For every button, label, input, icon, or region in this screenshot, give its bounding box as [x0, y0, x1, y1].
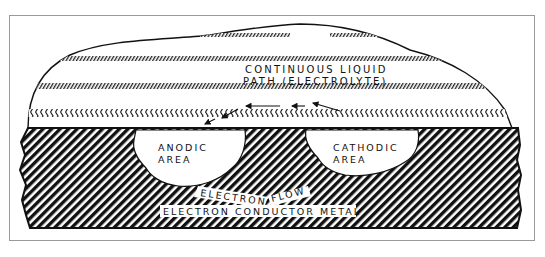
anodic-label-line2: AREA: [158, 154, 192, 165]
cathodic-label-line2: AREA: [333, 154, 367, 165]
electrolyte-label-line1: CONTINUOUS LIQUID: [245, 64, 388, 75]
cathodic-label-line1: CATHODIC: [333, 142, 399, 153]
anodic-label-line1: ANODIC: [158, 142, 208, 153]
metal-label: ELECTRON CONDUCTOR METAL: [160, 205, 361, 217]
metal-label-text: ELECTRON CONDUCTOR METAL: [163, 206, 361, 217]
electrolyte-label-line2: PATH (ELECTROLYTE): [243, 76, 388, 87]
corrosion-cell-diagram: CONTINUOUS LIQUID PATH (ELECTROLYTE) ANO…: [0, 0, 545, 257]
